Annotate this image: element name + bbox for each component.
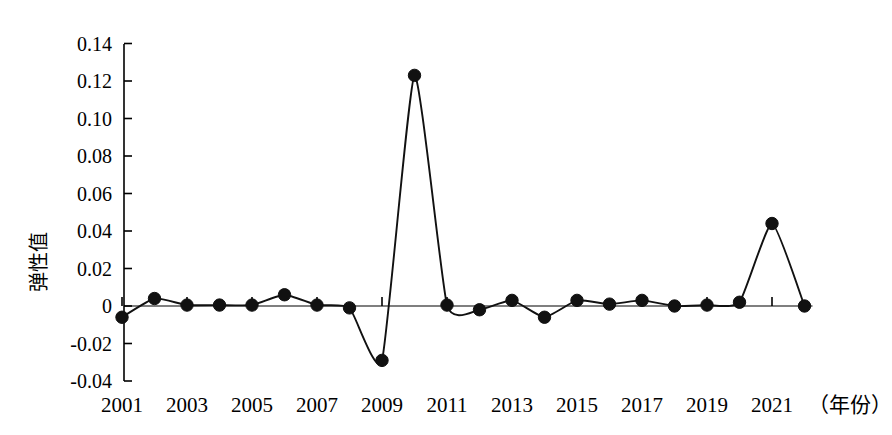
chart-background — [0, 0, 892, 435]
x-tick-label: 2005 — [231, 393, 273, 417]
data-point-marker — [733, 296, 745, 308]
data-point-marker — [116, 311, 128, 323]
x-tick-label: 2001 — [101, 393, 143, 417]
data-point-marker — [148, 292, 160, 304]
chart-container: -0.04-0.0200.020.040.060.080.100.120.142… — [0, 0, 892, 435]
elasticity-line-chart: -0.04-0.0200.020.040.060.080.100.120.142… — [0, 0, 892, 435]
data-point-marker — [181, 299, 193, 311]
y-axis-title: 弹性值 — [28, 232, 50, 292]
y-tick-label: -0.02 — [70, 333, 112, 355]
data-point-marker — [376, 354, 388, 366]
data-point-marker — [246, 299, 258, 311]
data-point-marker — [636, 294, 648, 306]
data-point-marker — [473, 304, 485, 316]
data-point-marker — [441, 299, 453, 311]
data-point-marker — [668, 300, 680, 312]
data-point-marker — [538, 311, 550, 323]
y-tick-label: 0.06 — [77, 183, 112, 205]
data-point-marker — [408, 69, 420, 81]
data-point-marker — [798, 300, 810, 312]
data-point-marker — [701, 299, 713, 311]
y-tick-label: 0.10 — [77, 108, 112, 130]
y-tick-label: 0.12 — [77, 70, 112, 92]
y-tick-label: 0.08 — [77, 145, 112, 167]
x-tick-label: 2017 — [621, 393, 663, 417]
y-tick-label: 0 — [102, 295, 112, 317]
data-point-marker — [506, 294, 518, 306]
x-axis-unit-label: （年份） — [808, 393, 892, 417]
x-tick-label: 2007 — [296, 393, 338, 417]
y-tick-label: 0.02 — [77, 258, 112, 280]
data-point-marker — [278, 289, 290, 301]
x-tick-label: 2013 — [491, 393, 533, 417]
x-tick-label: 2021 — [751, 393, 793, 417]
data-point-marker — [213, 299, 225, 311]
data-point-marker — [311, 299, 323, 311]
x-tick-label: 2003 — [166, 393, 208, 417]
y-tick-label: 0.04 — [77, 220, 112, 242]
x-tick-label: 2011 — [426, 393, 467, 417]
x-tick-label: 2009 — [361, 393, 403, 417]
data-point-marker — [343, 302, 355, 314]
data-point-marker — [766, 217, 778, 229]
y-tick-label: -0.04 — [70, 370, 112, 392]
data-point-marker — [603, 298, 615, 310]
data-point-marker — [571, 294, 583, 306]
x-tick-label: 2015 — [556, 393, 598, 417]
y-tick-label: 0.14 — [77, 33, 112, 55]
x-tick-label: 2019 — [686, 393, 728, 417]
